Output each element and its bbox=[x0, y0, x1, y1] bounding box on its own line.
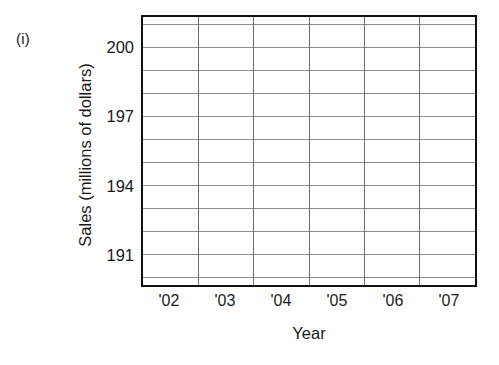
gridlines bbox=[143, 17, 475, 285]
chart-plot-area bbox=[141, 15, 477, 287]
y-axis-title: Sales (millions of dollars) bbox=[74, 15, 96, 295]
x-axis-tick-label: '05 bbox=[309, 290, 365, 314]
x-axis-tick-label-group: '02'03'04'05'06'07 bbox=[141, 290, 477, 314]
gridline-vertical bbox=[364, 17, 365, 285]
gridline-vertical bbox=[309, 17, 310, 285]
x-axis-tick-label: '04 bbox=[253, 290, 309, 314]
x-axis-tick-label: '02 bbox=[141, 290, 197, 314]
figure-part-label: (i) bbox=[16, 31, 30, 46]
y-axis-tick-label: 200 bbox=[96, 39, 134, 56]
y-axis-tick-label: 197 bbox=[96, 108, 134, 125]
gridline-vertical bbox=[253, 17, 254, 285]
x-axis-title: Year bbox=[141, 325, 477, 342]
gridline-vertical bbox=[419, 17, 420, 285]
x-axis-tick-label: '06 bbox=[365, 290, 421, 314]
x-axis-tick-label: '03 bbox=[197, 290, 253, 314]
y-axis-tick-label-group: 200197194191 bbox=[96, 0, 134, 365]
x-axis-tick-label: '07 bbox=[421, 290, 477, 314]
y-axis-tick-label: 191 bbox=[96, 247, 134, 264]
y-axis-tick-label: 194 bbox=[96, 178, 134, 195]
gridline-vertical bbox=[198, 17, 199, 285]
